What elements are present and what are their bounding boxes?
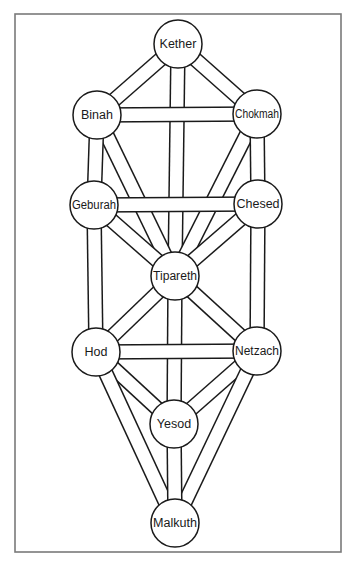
sephirah-label: Yesod (157, 417, 191, 431)
sephirah-label: Chokmah (235, 107, 279, 121)
sephirah-label: Binah (81, 108, 113, 122)
sephirah-label: Chesed (236, 197, 279, 211)
path-channel-fill (175, 44, 178, 276)
sephirah-tipareth: Tipareth (151, 252, 199, 300)
sephirah-chokmah: Chokmah (233, 90, 281, 138)
sephirah-hod: Hod (72, 328, 120, 376)
sephirah-yesod: Yesod (150, 400, 198, 448)
tree-of-life-diagram: KetherBinahChokmahGeburahChesedTiparethH… (0, 0, 353, 564)
sephirah-chesed: Chesed (234, 180, 282, 228)
sephirah-label: Hod (85, 345, 108, 359)
sephirah-geburah: Geburah (70, 181, 118, 229)
sephirah-label: Malkuth (153, 516, 197, 530)
diagram-canvas: KetherBinahChokmahGeburahChesedTiparethH… (0, 0, 353, 564)
sephirah-label: Tipareth (153, 269, 197, 283)
sephirah-label: Kether (160, 37, 197, 51)
sephirah-netzach: Netzach (233, 327, 281, 375)
sephirah-kether: Kether (154, 20, 202, 68)
path-kether-tipareth (175, 44, 178, 276)
sephirah-malkuth: Malkuth (151, 499, 199, 547)
sephirah-label: Netzach (235, 344, 279, 358)
sephirah-binah: Binah (73, 91, 121, 139)
sephirah-label: Geburah (72, 198, 116, 212)
